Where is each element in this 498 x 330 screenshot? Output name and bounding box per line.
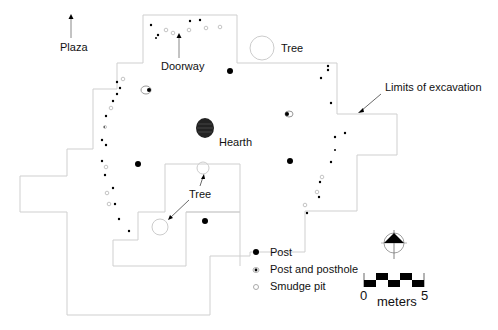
legend-posthole-label: Post and posthole (270, 263, 358, 275)
legend: Post Post and posthole Smudge pit (253, 246, 358, 292)
excavation-inner-boundary (113, 164, 240, 266)
posts-small (101, 19, 346, 232)
legend-smudge-label: Smudge pit (270, 280, 326, 292)
plaza-arrow (69, 14, 74, 38)
scale-bar: 0 5 meters (360, 273, 428, 309)
legend-post-icon (253, 249, 259, 255)
scale-unit-label: meters (377, 294, 417, 309)
hearth-label: Hearth (219, 136, 252, 148)
site-map: Plaza Doorway Tree Limits of excavation … (0, 0, 498, 330)
limits-arrow (358, 94, 381, 113)
tree-top-label: Tree (281, 42, 303, 54)
plaza-label: Plaza (60, 41, 88, 53)
scale-start-label: 0 (360, 288, 367, 303)
scale-end-label: 5 (421, 288, 428, 303)
tree-top-icon (250, 36, 274, 60)
tree-bottom-icon (152, 219, 168, 235)
tree-bottom-label: Tree (189, 188, 211, 200)
doorway-label: Doorway (161, 60, 205, 72)
posts-with-postholes (141, 86, 293, 117)
legend-post-label: Post (270, 246, 292, 258)
doorway-arrow (177, 33, 182, 58)
limits-label: Limits of excavation (385, 81, 482, 93)
legend-smudge-icon (254, 285, 259, 290)
north-arrow-icon (381, 230, 407, 259)
posts-large (135, 68, 293, 224)
